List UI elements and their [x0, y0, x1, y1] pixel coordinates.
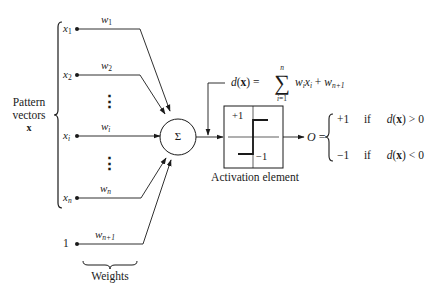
- dx-pointer-line: [208, 83, 225, 135]
- connection-wn: [77, 158, 166, 198]
- connection-w1: [77, 29, 170, 111]
- pattern-vector-symbol: x: [6, 123, 52, 133]
- input-label-x1: x1: [63, 23, 72, 36]
- summation-symbol: Σ: [168, 131, 188, 142]
- weight-label-w2: w2: [101, 60, 112, 73]
- activation-upper-label: +1: [232, 111, 243, 122]
- input-label-xn: xn: [63, 192, 72, 205]
- dx-equation: d(x) =: [231, 77, 260, 89]
- input-label-xi: xi: [63, 130, 70, 143]
- weight-label-wi: wi: [101, 121, 110, 134]
- weights-brace: [83, 261, 137, 269]
- weight-label-wn1: wn+1: [95, 229, 115, 242]
- equation-sum-symbol: ∑: [272, 72, 292, 94]
- equation-rhs: wixi + wn+1: [295, 77, 344, 90]
- input-label-bias: 1: [63, 238, 69, 250]
- activation-lower-label: −1: [256, 152, 267, 163]
- output-case-negative: −1 if d(x) < 0: [337, 150, 424, 162]
- output-brace: [325, 114, 333, 161]
- connection-w2: [77, 75, 165, 114]
- activation-element-label: Activation element: [210, 172, 300, 184]
- output-symbol: O =: [307, 131, 325, 143]
- pattern-vectors-label: Pattern vectors x: [6, 97, 52, 133]
- weight-label-wn: wn: [100, 183, 111, 196]
- input-brace: [54, 22, 62, 208]
- equation-sum-lower: i=1: [272, 95, 292, 103]
- weight-label-w1: w1: [101, 14, 112, 27]
- ellipsis-lower: ⋮: [101, 155, 118, 172]
- pattern-label-line1: Pattern: [6, 97, 52, 109]
- output-case-positive: +1 if d(x) > 0: [337, 114, 424, 126]
- ellipsis-upper: ⋮: [101, 93, 118, 110]
- weights-label: Weights: [80, 271, 140, 283]
- input-label-x2: x2: [63, 69, 72, 82]
- pattern-label-line2: vectors: [6, 110, 52, 122]
